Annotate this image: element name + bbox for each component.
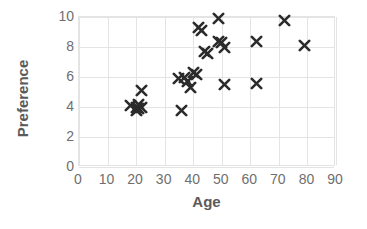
data-point-marker: [135, 84, 148, 97]
scatter-chart: 0246810 0102030405060708090 Preference A…: [0, 0, 367, 229]
y-axis-tick-label: 2: [48, 129, 74, 143]
x-axis-tick-labels: 0102030405060708090: [78, 172, 335, 190]
data-point-marker: [124, 99, 137, 112]
data-point-marker: [298, 39, 311, 52]
x-axis-title: Age: [78, 194, 335, 209]
y-axis-title: Preference: [15, 34, 30, 164]
x-axis-tick-label: 80: [299, 172, 315, 186]
data-point-marker: [190, 68, 203, 81]
y-axis-tick-label: 6: [48, 69, 74, 83]
gridline-vertical: [250, 17, 251, 165]
data-point-marker: [132, 98, 145, 111]
data-point-marker: [175, 104, 188, 117]
gridline-horizontal: [79, 77, 334, 78]
x-axis-tick-label: 40: [184, 172, 200, 186]
x-axis-tick-label: 90: [327, 172, 343, 186]
gridline-vertical: [108, 17, 109, 165]
gridline-horizontal: [79, 107, 334, 108]
gridline-horizontal: [79, 47, 334, 48]
data-point-marker: [278, 14, 291, 27]
y-axis-tick-label: 8: [48, 39, 74, 53]
data-point-marker: [195, 24, 208, 37]
gridline-vertical: [307, 17, 308, 165]
data-point-marker: [172, 72, 185, 85]
x-axis-tick-label: 30: [156, 172, 172, 186]
gridline-vertical: [136, 17, 137, 165]
gridline-vertical: [222, 17, 223, 165]
x-axis-tick-label: 60: [242, 172, 258, 186]
x-axis-tick-label: 0: [74, 172, 82, 186]
y-axis-tick-label: 4: [48, 99, 74, 113]
gridline-horizontal: [79, 17, 334, 18]
y-axis-tick-label: 0: [48, 159, 74, 173]
y-axis-tick-labels: 0246810: [44, 16, 74, 166]
data-point-marker: [212, 35, 225, 48]
data-point-marker: [218, 78, 231, 91]
data-point-marker: [132, 102, 145, 115]
gridline-vertical: [336, 17, 337, 165]
x-axis-tick-label: 50: [213, 172, 229, 186]
data-point-marker: [192, 21, 205, 34]
gridline-vertical: [79, 17, 80, 165]
y-axis-tick-label: 10: [48, 9, 74, 23]
gridline-horizontal: [79, 167, 334, 168]
gridline-horizontal: [79, 137, 334, 138]
data-point-marker: [250, 77, 263, 90]
x-axis-tick-label: 20: [127, 172, 143, 186]
data-point-marker: [250, 35, 263, 48]
data-point-marker: [201, 47, 214, 60]
data-point-marker: [184, 81, 197, 94]
gridline-vertical: [165, 17, 166, 165]
plot-area: [78, 16, 335, 166]
x-axis-tick-label: 70: [270, 172, 286, 186]
gridline-vertical: [279, 17, 280, 165]
x-axis-tick-label: 10: [99, 172, 115, 186]
data-point-marker: [212, 12, 225, 25]
gridline-vertical: [193, 17, 194, 165]
